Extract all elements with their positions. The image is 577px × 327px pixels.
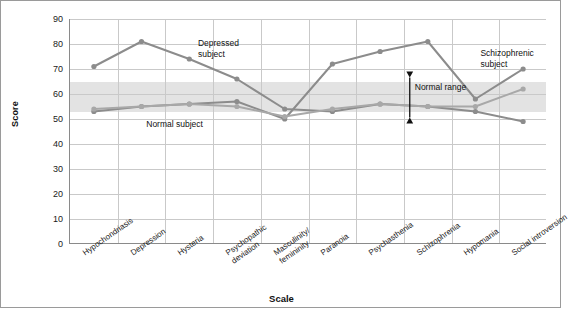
series-lines bbox=[70, 19, 547, 244]
series-point bbox=[473, 104, 478, 109]
series-point bbox=[330, 61, 335, 66]
y-axis-tick-label: 70 bbox=[53, 64, 63, 74]
series-line bbox=[94, 89, 523, 117]
series-point bbox=[378, 49, 383, 54]
series-point bbox=[234, 99, 239, 104]
chart-annotation-label: Normal subject bbox=[146, 119, 203, 130]
series-point bbox=[139, 39, 144, 44]
y-axis-tick-label: 90 bbox=[53, 14, 63, 24]
series-point bbox=[473, 96, 478, 101]
chart-annotation-label: Schizophrenic subject bbox=[480, 48, 533, 69]
series-point bbox=[330, 106, 335, 111]
series-point bbox=[187, 101, 192, 106]
plot-area: 0102030405060708090 bbox=[69, 19, 546, 244]
y-axis-tick-label: 10 bbox=[53, 214, 63, 224]
normal-range-arrow-head bbox=[406, 118, 413, 124]
chart-page: Score 0102030405060708090 Hypochondriasi… bbox=[0, 0, 577, 327]
series-point bbox=[425, 39, 430, 44]
chart-annotation-label: Depressed subject bbox=[198, 38, 239, 59]
y-axis-title: Score bbox=[10, 101, 20, 127]
y-axis-tick-label: 40 bbox=[53, 139, 63, 149]
y-axis-tick-label: 20 bbox=[53, 189, 63, 199]
series-point bbox=[378, 101, 383, 106]
series-point bbox=[521, 119, 526, 124]
y-axis-tick-label: 30 bbox=[53, 164, 63, 174]
chart-frame: Score 0102030405060708090 Hypochondriasi… bbox=[0, 0, 561, 308]
series-point bbox=[425, 104, 430, 109]
normal-range-arrow-head bbox=[406, 72, 413, 78]
series-point bbox=[234, 76, 239, 81]
series-point bbox=[473, 109, 478, 114]
series-point bbox=[282, 114, 287, 119]
series-point bbox=[282, 106, 287, 111]
series-point bbox=[139, 104, 144, 109]
y-axis-tick-label: 80 bbox=[53, 39, 63, 49]
series-point bbox=[91, 106, 96, 111]
y-axis-tick-label: 0 bbox=[58, 239, 63, 249]
x-axis-title: Scale bbox=[1, 293, 562, 304]
y-axis-tick-label: 50 bbox=[53, 114, 63, 124]
series-point bbox=[91, 64, 96, 69]
series-point bbox=[187, 56, 192, 61]
series-point bbox=[521, 86, 526, 91]
y-axis-tick-label: 60 bbox=[53, 89, 63, 99]
series-point bbox=[234, 104, 239, 109]
chart-annotation-label: Normal range bbox=[415, 82, 467, 93]
